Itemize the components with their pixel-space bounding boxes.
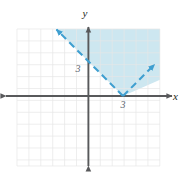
graph-figure: x y 3 3 — [0, 0, 185, 180]
x-vertex-label: 3 — [120, 99, 126, 110]
x-axis-label: x — [172, 90, 178, 102]
coordinate-plane-svg: x y 3 3 — [0, 0, 185, 180]
y-axis-label: y — [82, 7, 88, 19]
y-intercept-label: 3 — [75, 63, 81, 74]
